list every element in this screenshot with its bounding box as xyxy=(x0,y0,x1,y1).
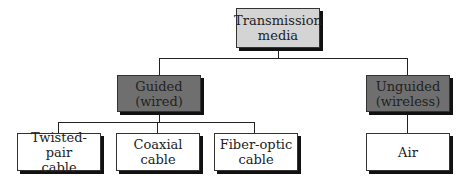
node-guided: Guided(wired) xyxy=(117,75,201,112)
node-label: Fiber-optic xyxy=(220,137,293,152)
node-label: Unguided xyxy=(376,79,441,94)
node-transmission-media: Transmissionmedia xyxy=(236,8,320,48)
node-label: cable xyxy=(41,160,76,175)
node-fiber-optic-cable: Fiber-opticcable xyxy=(214,133,298,171)
node-label: (wireless) xyxy=(376,94,441,109)
node-label: Coaxial xyxy=(134,137,183,152)
node-label: Guided xyxy=(135,79,182,94)
connector-to-guided xyxy=(159,58,160,75)
connector-to-coaxial xyxy=(157,122,158,133)
connector-unguided-to-air xyxy=(407,112,408,133)
node-label: (wired) xyxy=(135,94,183,109)
connector-level1-horizontal xyxy=(159,58,408,59)
node-label: Air xyxy=(398,145,418,160)
node-label: Twisted-pair xyxy=(31,130,87,160)
node-label: cable xyxy=(238,152,273,167)
node-air: Air xyxy=(366,133,450,171)
node-label: Transmission xyxy=(234,13,322,28)
connector-to-fiber xyxy=(254,122,255,133)
node-twisted-pair-cable: Twisted-paircable xyxy=(17,133,101,171)
node-label: media xyxy=(258,28,298,43)
node-unguided: Unguided(wireless) xyxy=(366,75,450,112)
node-label: cable xyxy=(140,152,175,167)
node-coaxial-cable: Coaxialcable xyxy=(116,133,200,171)
connector-to-unguided xyxy=(407,58,408,75)
